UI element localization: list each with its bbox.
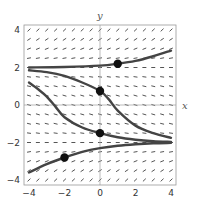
slope-mark [107, 48, 110, 49]
slope-mark [108, 38, 111, 40]
slope-mark [152, 58, 155, 59]
slope-mark [134, 38, 137, 40]
slope-mark [169, 58, 172, 59]
slope-mark [107, 123, 110, 124]
slope-mark [125, 179, 127, 181]
x-tick-label: 2 [133, 188, 139, 198]
x-tick-label: −4 [22, 188, 36, 198]
slope-field-plot: −4−2024 420−2−4 x y [0, 0, 198, 211]
slope-mark [169, 123, 172, 124]
slope-mark [116, 58, 119, 59]
x-tick-label: 0 [97, 188, 103, 198]
slope-mark [170, 161, 173, 162]
slope-mark [37, 170, 40, 172]
slope-mark [81, 58, 84, 59]
slope-mark [45, 58, 48, 59]
slope-mark [72, 114, 75, 115]
slope-mark [28, 179, 30, 181]
slope-mark [27, 152, 30, 153]
slope-mark [152, 179, 154, 181]
y-tick-labels: 420−2−4 [7, 25, 21, 185]
slope-mark [152, 170, 155, 172]
slope-mark [125, 123, 128, 124]
slope-mark [143, 114, 146, 115]
slope-mark [54, 58, 57, 59]
slope-mark [72, 95, 75, 96]
slope-mark [117, 29, 119, 31]
slope-mark [152, 152, 155, 153]
slope-mark [45, 123, 48, 124]
slope-mark [152, 86, 155, 87]
slope-mark [54, 38, 57, 40]
slope-mark [72, 161, 75, 162]
slope-mark [143, 179, 145, 181]
slope-mark [28, 48, 31, 49]
slope-mark [36, 86, 39, 87]
slope-mark [161, 179, 163, 181]
slope-mark [161, 29, 163, 31]
initial-point [114, 60, 122, 68]
initial-point [60, 153, 68, 161]
slope-mark [134, 170, 137, 172]
slope-mark [161, 161, 164, 162]
slope-mark [90, 38, 93, 40]
slope-mark [63, 29, 65, 31]
slope-mark [134, 29, 136, 31]
slope-mark [116, 123, 119, 124]
slope-mark [45, 161, 48, 162]
slope-mark [143, 29, 145, 31]
initial-point [96, 87, 104, 95]
slope-mark [72, 29, 74, 31]
slope-mark [37, 179, 39, 181]
slope-mark [72, 152, 75, 153]
slope-mark [63, 86, 66, 87]
slope-mark [27, 95, 30, 96]
slope-mark [161, 58, 164, 59]
slope-mark [54, 114, 57, 115]
slope-mark [81, 114, 84, 115]
slope-mark [54, 48, 57, 49]
slope-mark [134, 114, 137, 115]
slope-mark [45, 38, 48, 40]
slope-mark [125, 29, 127, 31]
slope-mark [36, 161, 39, 162]
slope-mark [27, 123, 30, 124]
slope-mark [28, 38, 31, 40]
slope-mark [72, 170, 75, 172]
slope-mark [81, 29, 83, 31]
x-tick-labels: −4−2024 [22, 188, 174, 198]
slope-mark [27, 114, 30, 115]
slope-mark [152, 29, 154, 31]
slope-mark [107, 86, 110, 87]
slope-mark [170, 170, 173, 172]
slope-mark [108, 170, 111, 172]
slope-mark [63, 48, 66, 49]
slope-mark [37, 29, 39, 31]
slope-mark [134, 179, 136, 181]
slope-mark [161, 48, 164, 49]
slope-mark [45, 48, 48, 49]
slope-mark [90, 114, 93, 115]
slope-mark [46, 29, 48, 31]
slope-mark [143, 95, 146, 96]
slope-mark [161, 114, 164, 115]
slope-mark [125, 170, 128, 172]
slope-mark [134, 152, 137, 153]
slope-mark [46, 179, 48, 181]
slope-mark [169, 95, 172, 96]
slope-mark [28, 29, 30, 31]
slope-mark [116, 161, 119, 162]
slope-mark [63, 123, 66, 124]
slope-mark [170, 38, 173, 40]
slope-mark [90, 48, 93, 49]
slope-mark [169, 152, 172, 153]
slope-mark [63, 95, 66, 96]
slope-mark [134, 86, 137, 87]
y-tick-label: 4 [14, 25, 20, 35]
slope-mark [107, 58, 110, 59]
slope-mark [116, 38, 119, 40]
slope-mark [143, 152, 146, 153]
slope-mark [143, 170, 146, 172]
slope-mark [161, 95, 164, 96]
slope-mark [54, 95, 57, 96]
